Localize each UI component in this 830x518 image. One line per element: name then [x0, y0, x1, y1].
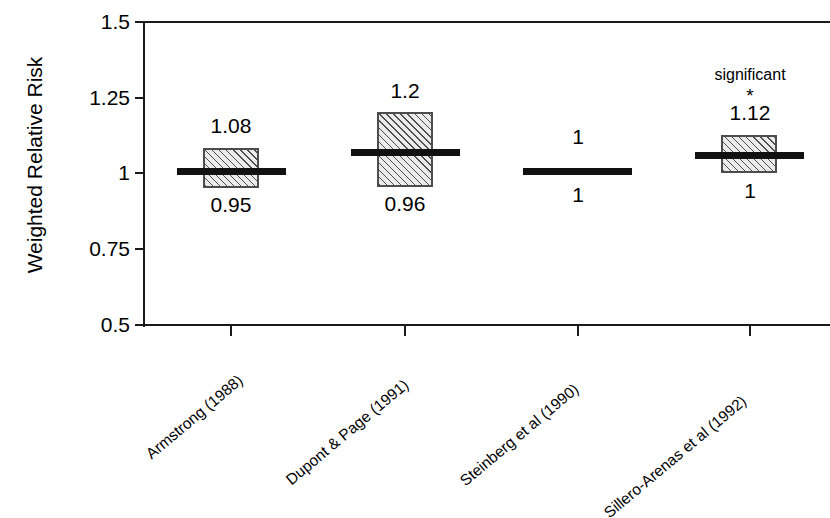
x-tick-label-steinberg: Steinberg et al (1990)	[457, 380, 582, 489]
upper-value-label-sillero-arenas: 1.12	[690, 101, 810, 124]
forest-plot-figure: Weighted Relative Risk 1.5 1.25 1 0.75 0…	[0, 0, 830, 518]
upper-value-label-dupont-page: 1.2	[345, 79, 465, 102]
y-tick-label-1.25: 1.25	[30, 87, 130, 108]
y-tick-mark-0.5	[135, 324, 144, 326]
upper-value-label-steinberg: 1	[518, 125, 638, 148]
y-tick-mark-1	[135, 172, 144, 174]
significance-annotation-sillero-arenas: significant	[690, 66, 810, 83]
plot-top-border	[143, 21, 830, 23]
x-tick-label-dupont-page: Dupont & Page (1991)	[283, 376, 412, 488]
y-tick-label-0.5: 0.5	[30, 314, 130, 335]
y-tick-mark-0.75	[135, 248, 144, 250]
lower-value-label-dupont-page: 0.96	[345, 192, 465, 215]
x-axis-line	[143, 324, 830, 326]
estimate-line-sillero-arenas	[695, 152, 804, 159]
y-tick-label-1.5: 1.5	[30, 11, 130, 32]
upper-value-label-armstrong: 1.08	[171, 114, 291, 137]
lower-value-label-armstrong: 0.95	[171, 193, 291, 216]
y-axis-line	[143, 21, 145, 327]
lower-value-label-sillero-arenas: 1	[690, 179, 810, 202]
lower-value-label-steinberg: 1	[518, 183, 638, 206]
x-tick-mark-steinberg	[577, 325, 579, 336]
x-tick-mark-dupont-page	[404, 325, 406, 336]
estimate-line-dupont-page	[351, 149, 460, 156]
y-tick-mark-1.25	[135, 97, 144, 99]
x-tick-label-sillero-arenas: Sillero-Arenas et al (1992)	[601, 392, 750, 518]
y-tick-label-0.75: 0.75	[30, 238, 130, 259]
x-tick-label-armstrong: Armstrong (1988)	[143, 371, 246, 462]
y-tick-label-1: 1	[30, 162, 130, 183]
estimate-line-armstrong	[177, 168, 286, 175]
x-tick-mark-sillero-arenas	[749, 325, 751, 336]
x-tick-mark-armstrong	[230, 325, 232, 336]
y-tick-mark-1.5	[135, 21, 144, 23]
estimate-line-steinberg	[523, 168, 632, 175]
